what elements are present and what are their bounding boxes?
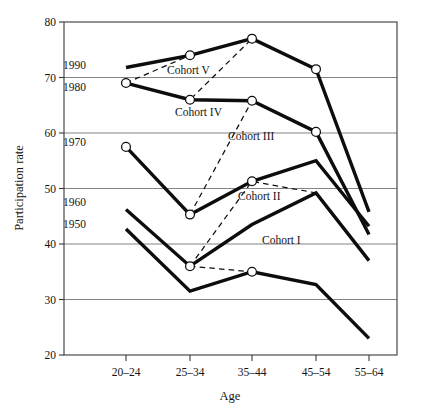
data-point-marker — [248, 177, 257, 186]
y-tick-label: 80 — [45, 16, 57, 28]
x-tick-label: 25–34 — [176, 366, 205, 378]
cohort-label-cohort-iv: Cohort IV — [175, 106, 223, 118]
data-point-marker — [186, 210, 195, 219]
x-axis-title: Age — [220, 389, 241, 403]
data-point-marker — [312, 65, 321, 74]
data-point-marker — [186, 51, 195, 60]
period-line-1960 — [126, 193, 369, 266]
cohort-label-cohort-i: Cohort I — [262, 234, 301, 246]
cohort-labels: Cohort ICohort IICohort IIICohort IVCoho… — [167, 64, 301, 246]
data-point-marker — [248, 267, 257, 276]
series-label-1950: 1950 — [63, 218, 86, 230]
x-tick-label: 20–24 — [112, 366, 141, 378]
data-point-marker — [186, 95, 195, 104]
series-label-1990: 1990 — [63, 59, 86, 71]
y-tick-label: 40 — [45, 238, 57, 250]
series-label-1960: 1960 — [63, 196, 86, 208]
series-labels: 19901980197019601950 — [63, 59, 86, 230]
data-point-marker — [122, 142, 131, 151]
cohort-label-cohort-v: Cohort V — [167, 64, 211, 76]
chart-figure: Participation rate Age 20304050607080 20… — [0, 0, 421, 416]
y-tick-labels: 20304050607080 — [45, 16, 57, 361]
x-tick-labels: 20–2425–3435–4445–5455–64 — [112, 366, 384, 378]
series-label-1980: 1980 — [63, 81, 86, 93]
cohort-line-cohort-i — [190, 266, 252, 272]
y-tick-label: 50 — [45, 183, 57, 195]
y-tick-label: 20 — [45, 349, 57, 361]
x-tick-label: 35–44 — [238, 366, 267, 378]
cohort-label-cohort-iii: Cohort III — [228, 130, 274, 142]
cohort-label-cohort-ii: Cohort II — [238, 190, 281, 202]
data-point-marker — [186, 262, 195, 271]
participation-rate-line-chart: Participation rate Age 20304050607080 20… — [0, 0, 421, 416]
y-tick-label: 70 — [45, 72, 57, 84]
y-tick-label: 30 — [45, 294, 57, 306]
data-point-marker — [312, 127, 321, 136]
x-tick-label: 55–64 — [355, 366, 384, 378]
y-axis-title: Participation rate — [12, 145, 26, 231]
x-tickmarks — [126, 355, 369, 361]
data-point-marker — [248, 96, 257, 105]
y-tick-label: 60 — [45, 127, 57, 139]
period-line-1950 — [126, 229, 369, 338]
data-point-marker — [248, 34, 257, 43]
x-tick-label: 45–54 — [302, 366, 331, 378]
series-label-1970: 1970 — [63, 136, 86, 148]
data-point-marker — [122, 79, 131, 88]
